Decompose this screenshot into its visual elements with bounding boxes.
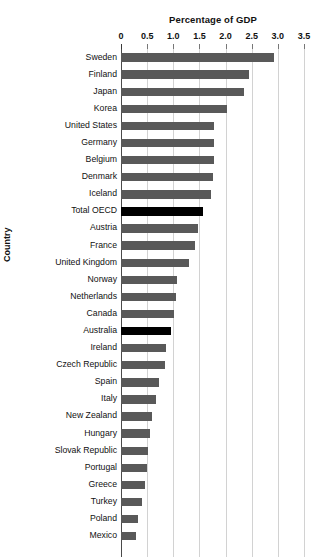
category-label: Netherlands xyxy=(70,291,117,301)
category-label: Korea xyxy=(94,103,117,113)
category-label: New Zealand xyxy=(66,410,117,420)
bar xyxy=(121,515,138,523)
x-tick-label: 3.5 xyxy=(298,31,311,41)
bar-row: United States xyxy=(0,117,319,134)
category-label: Portugal xyxy=(85,462,117,472)
bar-row: United Kingdom xyxy=(0,254,319,271)
bar-track xyxy=(121,254,304,271)
bar xyxy=(121,429,150,437)
bar xyxy=(121,105,227,113)
bar-row: Finland xyxy=(0,66,319,83)
bar-row: Australia xyxy=(0,323,319,340)
bar-track xyxy=(121,49,304,66)
category-label: Ireland xyxy=(90,342,117,352)
bar-track xyxy=(121,271,304,288)
bar-track xyxy=(121,220,304,237)
x-tick-label: 3.0 xyxy=(272,31,285,41)
bar xyxy=(121,310,174,318)
category-label: Greece xyxy=(89,479,118,489)
bar-row: Austria xyxy=(0,220,319,237)
bar xyxy=(121,70,249,78)
bar-track xyxy=(121,511,304,528)
bar-row: Poland xyxy=(0,511,319,528)
bar xyxy=(121,293,176,301)
bar-row: Canada xyxy=(0,305,319,322)
x-tick-label: 0 xyxy=(118,31,123,41)
bar-track xyxy=(121,305,304,322)
category-label: Total OECD xyxy=(71,205,117,215)
bar-track xyxy=(121,186,304,203)
bar-track xyxy=(121,476,304,493)
bar xyxy=(121,498,142,506)
bar-track xyxy=(121,288,304,305)
bar xyxy=(121,259,189,267)
bar-track xyxy=(121,374,304,391)
bar xyxy=(121,327,171,335)
bar-track xyxy=(121,169,304,186)
x-axis-title: Percentage of GDP xyxy=(120,14,306,25)
bar xyxy=(121,344,166,352)
category-label: Poland xyxy=(90,513,117,523)
category-label: Slovak Republic xyxy=(55,445,117,455)
category-label: Austria xyxy=(90,222,117,232)
bar-row: Mexico xyxy=(0,528,319,545)
bar-track xyxy=(121,340,304,357)
bar-row: Iceland xyxy=(0,186,319,203)
bar xyxy=(121,464,147,472)
category-label: Japan xyxy=(93,86,117,96)
category-label: Turkey xyxy=(91,496,117,506)
bar-track xyxy=(121,152,304,169)
bar-row: Netherlands xyxy=(0,288,319,305)
bar-row: Hungary xyxy=(0,425,319,442)
bar-rows: SwedenFinlandJapanKoreaUnited StatesGerm… xyxy=(0,49,319,545)
bar xyxy=(121,190,211,198)
bar xyxy=(121,207,203,215)
bar-track xyxy=(121,237,304,254)
category-label: Italy xyxy=(101,393,117,403)
category-label: Czech Republic xyxy=(56,359,117,369)
bar-track xyxy=(121,117,304,134)
category-label: Norway xyxy=(88,274,117,284)
category-label: Denmark xyxy=(82,171,117,181)
bar xyxy=(121,139,214,147)
bar-track xyxy=(121,357,304,374)
bar-track xyxy=(121,528,304,545)
bar-track xyxy=(121,391,304,408)
x-tick-label: 1.0 xyxy=(167,31,180,41)
bar-track xyxy=(121,66,304,83)
category-label: France xyxy=(90,240,117,250)
x-tick-label: 0.5 xyxy=(141,31,154,41)
bar-track xyxy=(121,134,304,151)
category-label: United Kingdom xyxy=(55,257,117,267)
bar xyxy=(121,53,274,61)
bar xyxy=(121,481,145,489)
category-label: Mexico xyxy=(89,530,117,540)
category-label: Belgium xyxy=(86,154,117,164)
x-axis-ticks: 00.51.01.52.02.53.03.5 xyxy=(121,31,304,49)
bar-row: Norway xyxy=(0,271,319,288)
bar-track xyxy=(121,459,304,476)
category-label: Spain xyxy=(95,376,117,386)
bar-row: Italy xyxy=(0,391,319,408)
bar xyxy=(121,361,165,369)
x-tick-label: 1.5 xyxy=(193,31,206,41)
bar xyxy=(121,447,148,455)
bar-row: Turkey xyxy=(0,493,319,510)
bar-track xyxy=(121,100,304,117)
bar-row: Portugal xyxy=(0,459,319,476)
category-label: Germany xyxy=(81,137,117,147)
bar-row: Spain xyxy=(0,374,319,391)
bar-track xyxy=(121,323,304,340)
bar-track xyxy=(121,442,304,459)
bar xyxy=(121,241,195,249)
bar xyxy=(121,395,156,403)
bar-row: Ireland xyxy=(0,340,319,357)
bar xyxy=(121,224,198,232)
bar-track xyxy=(121,203,304,220)
bar-track xyxy=(121,408,304,425)
bar xyxy=(121,276,177,284)
bar-row: Korea xyxy=(0,100,319,117)
bar-row: Belgium xyxy=(0,152,319,169)
bar-row: New Zealand xyxy=(0,408,319,425)
bar-track xyxy=(121,493,304,510)
